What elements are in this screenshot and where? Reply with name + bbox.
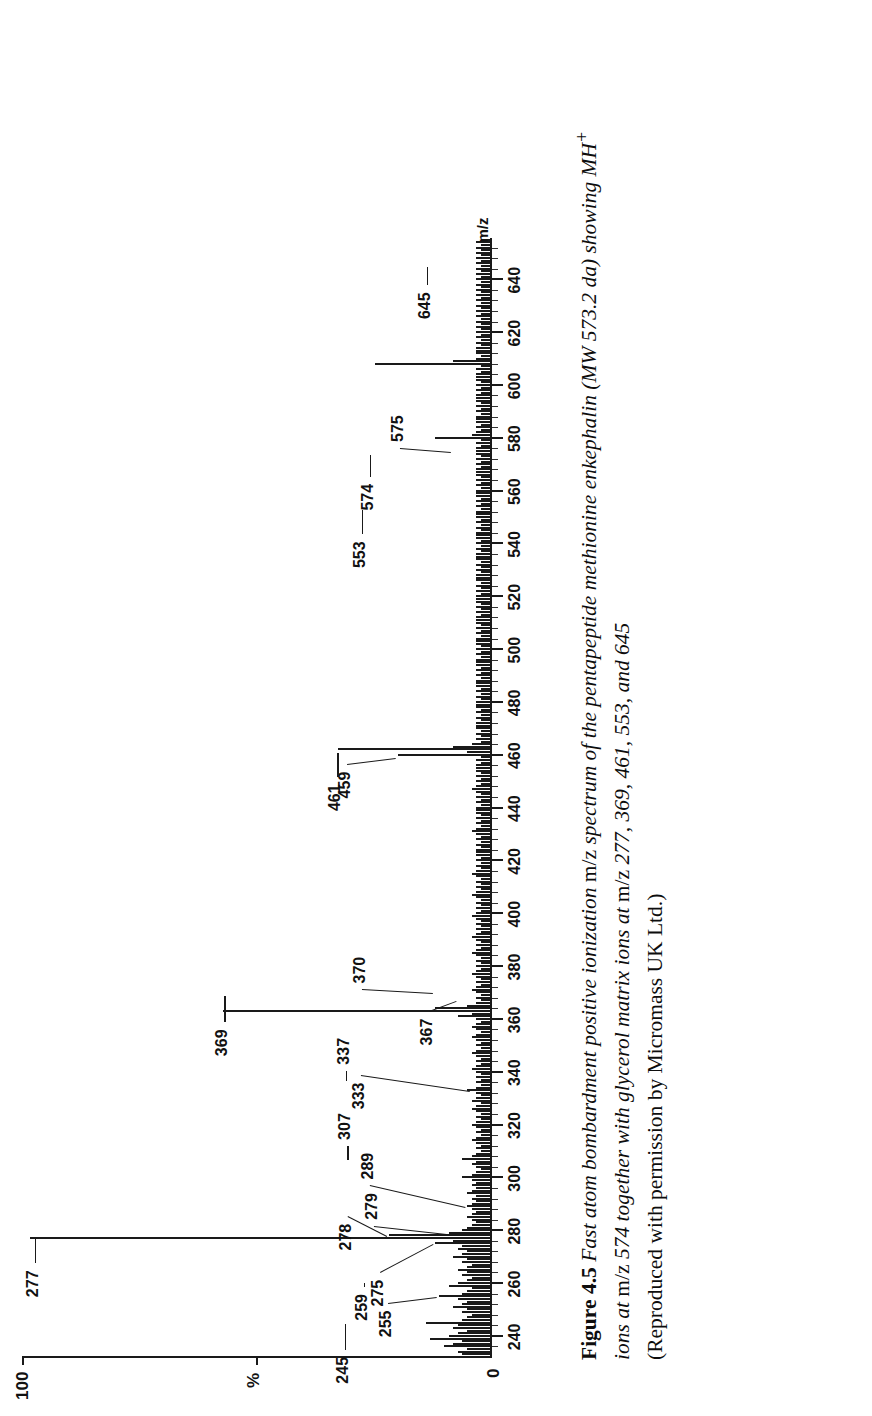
spectrum-peak — [472, 1190, 490, 1192]
spectrum-peak — [476, 1081, 490, 1083]
spectrum-peak — [481, 281, 490, 283]
spectrum-peak — [476, 870, 490, 872]
caption-line-3: (Reproduced with permission by Micromass… — [639, 240, 672, 1360]
spectrum-peak — [476, 376, 490, 378]
spectrum-peak — [481, 756, 490, 758]
spectrum-peak — [481, 571, 490, 573]
x-tick-minor — [492, 617, 498, 618]
spectrum-peak — [481, 413, 490, 415]
spectrum-peak — [476, 458, 490, 460]
spectrum-peak — [476, 513, 490, 515]
spectrum-peak — [476, 373, 490, 375]
x-tick-minor — [492, 1304, 498, 1305]
spectrum-peak — [476, 384, 490, 386]
spectrum-peak — [476, 886, 490, 888]
x-tick-label: 400 — [506, 901, 524, 928]
spectrum-peak — [476, 912, 490, 914]
x-tick-minor — [492, 681, 498, 682]
spectrum-peak — [472, 1052, 490, 1054]
spectrum-peak — [476, 701, 490, 703]
x-axis-title: m/z — [474, 218, 491, 243]
spectrum-peak — [476, 1187, 490, 1189]
x-tick-minor — [492, 480, 498, 481]
spectrum-peak — [476, 764, 490, 766]
spectrum-peak — [449, 1232, 490, 1234]
spectrum-peak — [462, 1176, 490, 1178]
spectrum-peak — [481, 429, 490, 431]
spectrum-peak — [472, 894, 490, 896]
spectrum-peak — [481, 904, 490, 906]
spectrum-peak — [476, 558, 490, 560]
spectrum-peak — [476, 722, 490, 724]
x-tick-minor — [492, 1103, 498, 1104]
spectrum-peak — [472, 1287, 490, 1289]
spectrum-peak — [481, 1134, 490, 1136]
x-tick-minor — [492, 1325, 498, 1326]
x-tick-minor — [492, 417, 498, 418]
spectrum-peak — [481, 1063, 490, 1065]
spectrum-peak — [476, 991, 490, 993]
spectrum-peak — [481, 561, 490, 563]
spectrum-peak — [453, 1240, 490, 1242]
x-tick-minor — [492, 882, 498, 883]
spectrum-peak — [481, 878, 490, 880]
figure-number: Figure 4.5 — [577, 1267, 601, 1360]
caption-2b: 574 together with glycerol matrix ions a… — [610, 902, 634, 1264]
spectrum-peak — [458, 1248, 490, 1250]
leader-line-259 — [364, 1283, 365, 1287]
spectrum-peak — [481, 910, 490, 912]
spectrum-peak — [476, 500, 490, 502]
x-tick-minor — [492, 554, 498, 555]
spectrum-peak — [481, 714, 490, 716]
x-tick-minor — [492, 248, 498, 249]
spectrum-peak — [462, 1158, 490, 1160]
spectrum-peak — [476, 1087, 490, 1089]
leader-line-645 — [427, 267, 428, 285]
spectrum-peak — [476, 896, 490, 898]
spectrum-peak — [472, 952, 490, 954]
spectrum-peak — [476, 981, 490, 983]
peak-label-278: 278 — [337, 1224, 355, 1251]
spectrum-peak — [481, 804, 490, 806]
spectrum-peak — [462, 1311, 490, 1313]
spectrum-peak — [476, 1002, 490, 1004]
spectrum-peak — [481, 244, 490, 246]
spectrum-peak — [481, 339, 490, 341]
spectrum-peak — [476, 310, 490, 312]
spectrum-peak — [476, 859, 490, 861]
x-tick-minor — [492, 945, 498, 946]
spectrum-peak — [476, 907, 490, 909]
spectrum-peak — [453, 1327, 490, 1329]
spectrum-peak — [476, 1097, 490, 1099]
spectrum-peak — [476, 1161, 490, 1163]
spectrum-peak — [476, 727, 490, 729]
x-tick-label: 280 — [506, 1218, 524, 1245]
spectrum-peak — [476, 1166, 490, 1168]
x-tick-major — [492, 1335, 503, 1337]
spectrum-peak — [476, 273, 490, 275]
spectrum-peak — [453, 1256, 490, 1258]
spectrum-peak — [476, 1200, 490, 1202]
x-tick-minor — [492, 1061, 498, 1062]
x-tick-minor — [492, 300, 498, 301]
caption-2c: 277, 369, 461, 553, and 645 — [610, 623, 634, 870]
spectrum-peak — [481, 392, 490, 394]
spectrum-peak — [476, 923, 490, 925]
x-tick-minor — [492, 290, 498, 291]
spectrum-peak — [476, 606, 490, 608]
spectrum-peak — [472, 1163, 490, 1165]
y-axis-title: % — [244, 1373, 264, 1388]
caption-2-mz-2: m/z — [610, 870, 634, 902]
spectrum-peak — [481, 487, 490, 489]
x-tick-minor — [492, 512, 498, 513]
spectrum-peak — [476, 1137, 490, 1139]
spectrum-peak — [476, 299, 490, 301]
peak-label-337: 337 — [335, 1038, 353, 1065]
spectrum-peak — [481, 978, 490, 980]
spectrum-peak — [476, 933, 490, 935]
spectrum-peak — [476, 479, 490, 481]
spectrum-peak — [467, 1308, 490, 1310]
spectrum-peak — [449, 1335, 490, 1337]
spectrum-peak — [481, 466, 490, 468]
x-tick-minor — [492, 903, 498, 904]
